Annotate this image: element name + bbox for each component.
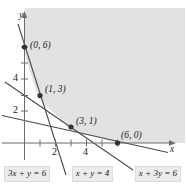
equation-label-3x-plus-y-equals-6: 3x + y = 6 — [4, 166, 50, 182]
point-label-1-3: (1, 3) — [45, 85, 66, 95]
point-label-6-0: (6, 0) — [121, 131, 142, 141]
point-label-0-6: (0, 6) — [30, 41, 51, 51]
vertex-point-0-6 — [22, 44, 27, 49]
y-tick-label-2: 2 — [13, 105, 18, 115]
graph-figure: y x 2 4 2 4 (0, 6) (1, 3) (3, 1) (6, 0) … — [0, 0, 185, 191]
vertex-point-3-1 — [68, 124, 73, 129]
equation-label-x-plus-3y-equals-6: x + 3y = 6 — [135, 166, 181, 182]
equation-label-x-plus-y-equals-4: x + y = 4 — [72, 166, 114, 182]
equation-legend: 3x + y = 6 x + y = 4 x + 3y = 6 — [0, 164, 185, 184]
vertex-point-6-0 — [115, 140, 120, 145]
point-label-3-1: (3, 1) — [76, 117, 97, 127]
x-tick-label-2: 2 — [52, 147, 57, 157]
y-axis-label: y — [19, 11, 23, 21]
feasible-region-shading — [25, 8, 186, 143]
y-tick-label-4: 4 — [13, 73, 18, 83]
coordinate-plane — [0, 0, 185, 191]
vertex-point-1-3 — [37, 93, 42, 98]
x-axis-label: x — [170, 145, 174, 155]
x-tick-label-4: 4 — [83, 147, 88, 157]
